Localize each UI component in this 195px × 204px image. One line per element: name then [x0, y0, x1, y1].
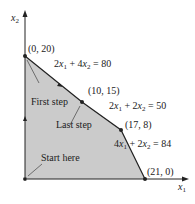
vertex-origin [24, 178, 27, 181]
vertex-10-15 [80, 100, 84, 104]
y-axis-label: x2 [11, 13, 19, 25]
vertex-0-20 [23, 54, 27, 58]
start-here-label: Start here [41, 153, 80, 163]
y-axis-arrow-icon [23, 10, 28, 17]
vertex-label: (17, 8) [125, 120, 152, 130]
first-step-label: First step [31, 97, 68, 107]
constraint-label: 4x1 + 2x2 = 84 [114, 139, 171, 151]
constraint-label: 2x1 + 4x2 = 80 [54, 59, 111, 71]
vertex-label: (10, 15) [88, 86, 120, 96]
last-step-label: Last step [56, 120, 92, 130]
vertex-21-0 [143, 177, 147, 181]
x-axis-label: x1 [178, 182, 186, 194]
vertex-17-8 [119, 128, 123, 132]
vertex-label: (21, 0) [147, 167, 174, 177]
x-axis-arrow-icon [182, 177, 189, 182]
vertex-label: (0, 20) [28, 44, 55, 54]
constraint-label: 2x1 + 2x2 = 50 [109, 101, 166, 113]
